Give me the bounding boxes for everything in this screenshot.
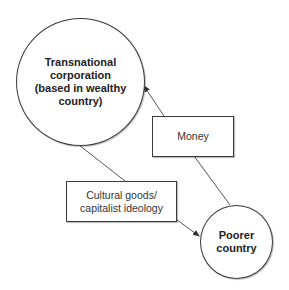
node-transnational-corporation-label: Transnational corporation (based in weal… (35, 56, 127, 108)
node-money-label: Money (177, 130, 209, 143)
edge-cultural-to-poorer-arrow (176, 219, 199, 236)
node-money: Money (152, 116, 234, 157)
edge-poorer-to-money (194, 156, 230, 205)
node-cultural-goods-label: Cultural goods/ capitalist ideology (80, 189, 163, 215)
node-poorer-country-label: Poorer country (216, 229, 256, 255)
node-transnational-corporation: Transnational corporation (based in weal… (16, 18, 145, 146)
edge-tnc-to-cultural (79, 145, 125, 181)
node-poorer-country: Poorer country (200, 205, 273, 279)
node-cultural-goods: Cultural goods/ capitalist ideology (66, 181, 177, 222)
edge-money-to-tnc-arrow (144, 86, 164, 116)
diagram-canvas: Transnational corporation (based in weal… (0, 0, 289, 290)
